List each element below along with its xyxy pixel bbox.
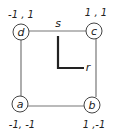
node-a: a	[12, 96, 28, 112]
local-axes	[58, 36, 84, 68]
node-c-label: c	[91, 25, 97, 38]
node-a-label: a	[17, 98, 24, 111]
coords-b: 1 ,-1	[83, 119, 106, 130]
coords-c: 1 , 1	[85, 7, 107, 18]
node-b-label: b	[89, 99, 96, 112]
node-d: d	[13, 24, 29, 40]
coords-a: -1, -1	[9, 119, 35, 130]
coords-d: -1 , 1	[8, 9, 34, 20]
node-d-label: d	[18, 26, 26, 39]
element-diagram: d c a b -1 , 1 1 , 1 -1, -1 1 ,-1 s r	[0, 0, 114, 135]
axis-s-label: s	[55, 17, 61, 30]
node-c: c	[86, 23, 102, 39]
axis-r-label: r	[86, 61, 92, 74]
node-b: b	[84, 97, 100, 113]
